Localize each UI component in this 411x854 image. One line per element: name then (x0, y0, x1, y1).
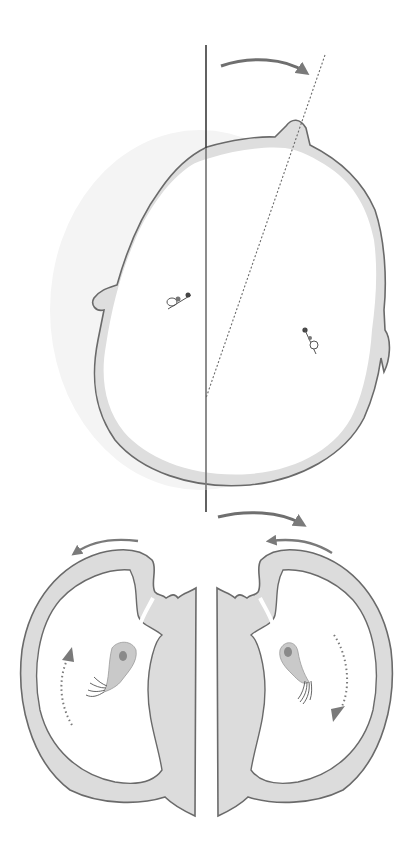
left-half-section (21, 550, 196, 816)
diagram-canvas (0, 0, 411, 854)
top-panel (50, 45, 389, 512)
rotation-arrow-top (221, 60, 305, 72)
diagram-svg (0, 0, 411, 854)
rotation-arrow-bottom (218, 513, 302, 524)
bottom-panel (21, 513, 393, 816)
